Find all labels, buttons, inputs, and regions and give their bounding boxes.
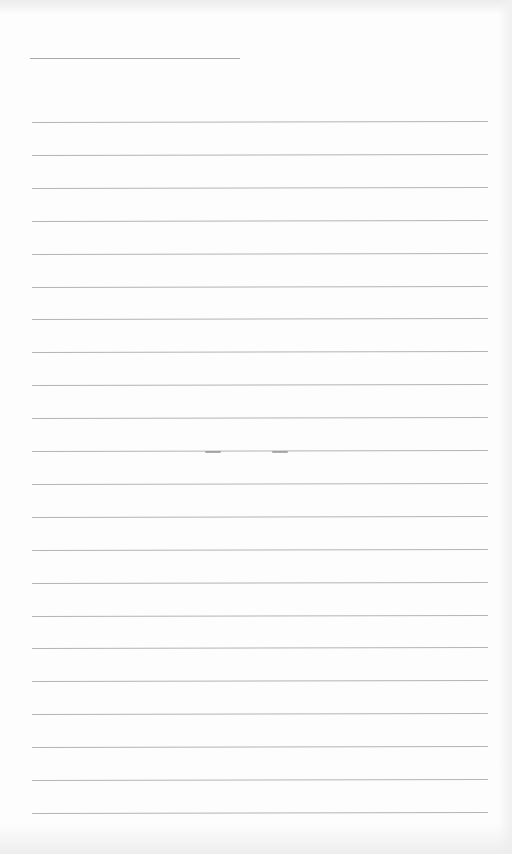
ruled-line [32,647,488,649]
ruled-line [32,812,488,814]
ruled-line [32,615,488,617]
ruled-line [32,286,488,288]
header-line [30,58,240,59]
ruled-line [32,516,488,518]
ruled-line [32,417,488,419]
ruled-line [32,318,488,320]
ruled-line [32,121,488,123]
scan-right-edge [498,0,512,854]
ruled-line [32,187,488,189]
ink-smudge [205,451,221,453]
ruled-line [32,680,488,682]
lined-paper-page [0,0,512,854]
ruled-line [32,582,488,584]
ruled-line [32,779,488,781]
ink-smudge [272,451,288,453]
scan-top-edge [0,0,512,14]
ruled-line [32,253,488,255]
ruled-line [32,483,488,485]
ruled-line [32,220,488,222]
ruled-line [32,351,488,353]
ruled-line [32,713,488,715]
ruled-line [32,384,488,386]
ruled-line [32,549,488,551]
scan-bottom-edge [0,824,512,854]
ruled-line [32,154,488,156]
ruled-line [32,450,488,452]
ruled-line [32,746,488,748]
